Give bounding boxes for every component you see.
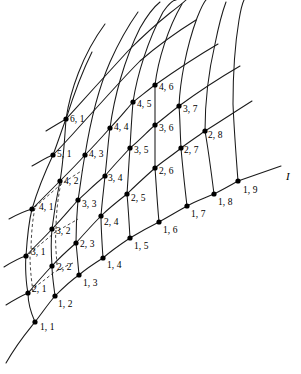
- mesh-node: [107, 125, 112, 130]
- node-label: 4, 1: [39, 203, 54, 213]
- node-label: 4, 6: [159, 83, 174, 93]
- axis-line: [238, 166, 281, 181]
- mesh-node: [152, 82, 157, 87]
- mesh-node: [57, 178, 62, 183]
- mesh-node: [156, 219, 161, 224]
- j-curve-8: [205, 2, 226, 194]
- node-label: 2, 1: [32, 285, 47, 295]
- node-label: 1, 1: [40, 323, 55, 333]
- mesh-node: [100, 255, 105, 260]
- mesh-node: [82, 152, 87, 157]
- mesh-node: [202, 128, 207, 133]
- j-curve-2: [51, 24, 105, 296]
- i-family-curves: [4, 0, 252, 322]
- node-label: 2, 5: [131, 194, 146, 204]
- mesh-node: [73, 240, 78, 245]
- mesh-node: [50, 152, 55, 157]
- node-label: 2, 7: [184, 146, 199, 156]
- j-curve-3: [76, 12, 138, 275]
- mesh-node: [152, 122, 157, 127]
- node-label: 3, 6: [159, 124, 174, 134]
- mesh-node: [32, 319, 37, 324]
- node-label: 1, 2: [58, 300, 73, 310]
- node-label: 1, 8: [218, 198, 233, 208]
- node-label: 1, 6: [163, 226, 178, 236]
- node-label: 1, 3: [83, 279, 98, 289]
- node-label: 3, 5: [134, 146, 149, 156]
- j-curve-9: [233, 0, 244, 181]
- node-label: 5, 1: [57, 150, 72, 160]
- mesh-node: [98, 213, 103, 218]
- axis-ray: [238, 166, 281, 181]
- node-label: 3, 1: [31, 248, 46, 258]
- mesh-node: [184, 203, 189, 208]
- node-label: 1, 7: [191, 210, 206, 220]
- node-label: 4, 2: [64, 177, 79, 187]
- node-label: 1, 9: [243, 186, 258, 196]
- mesh-node: [235, 178, 240, 183]
- node-label: 2, 2: [57, 263, 72, 273]
- mesh-node: [49, 263, 54, 268]
- mesh-node: [76, 272, 81, 277]
- node-label: 3, 2: [56, 227, 71, 237]
- node-label: 1, 5: [134, 242, 149, 252]
- j-curve-6: [155, 4, 182, 222]
- node-label: 6, 1: [70, 115, 85, 125]
- mesh-node: [23, 253, 28, 258]
- mesh-node: [178, 145, 183, 150]
- mesh-node: [25, 290, 30, 295]
- i-curve-3: [4, 66, 240, 267]
- node-label: 3, 4: [108, 174, 123, 184]
- node-label: 2, 3: [80, 240, 95, 250]
- mesh-node: [152, 165, 157, 170]
- node-label: 4, 5: [137, 100, 152, 110]
- mesh-node: [29, 206, 34, 211]
- node-label: 3, 7: [183, 105, 198, 115]
- node-label: 4, 4: [114, 123, 129, 133]
- mesh-node: [75, 197, 80, 202]
- mesh-node: [127, 235, 132, 240]
- mesh-node: [102, 173, 107, 178]
- node-label: 1, 4: [107, 261, 122, 271]
- node-label: 3, 3: [82, 200, 97, 210]
- mesh-node: [63, 116, 68, 121]
- mesh-node: [130, 99, 135, 104]
- mesh-node: [49, 226, 54, 231]
- mesh-node: [124, 191, 129, 196]
- mesh-node: [52, 293, 57, 298]
- mesh-diagram: 1, 11, 21, 31, 41, 51, 61, 71, 81, 92, 1…: [0, 0, 301, 374]
- node-label: 2, 4: [104, 218, 119, 228]
- node-label: 2, 6: [159, 167, 174, 177]
- mesh-node: [211, 191, 216, 196]
- axis-label-I: I: [286, 171, 290, 182]
- node-label: 4, 3: [89, 150, 104, 160]
- node-label: 2, 8: [208, 131, 223, 141]
- mesh-node: [127, 145, 132, 150]
- mesh-node: [176, 103, 181, 108]
